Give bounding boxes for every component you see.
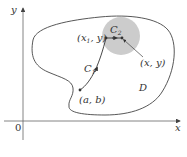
line-integral-diagram: y x 0 C2 C1 (x1, y) (x, y) (a, b) D: [0, 0, 187, 157]
a-b-label: (a, b): [79, 94, 106, 105]
point-x-y: [121, 37, 124, 40]
c1-label: C1: [84, 63, 95, 75]
c2-subscript: 2: [117, 29, 122, 36]
region-d-label: D: [138, 82, 147, 93]
c1-subscript: 1: [92, 68, 96, 75]
y-axis-label: y: [10, 4, 17, 15]
origin-label: 0: [15, 122, 21, 133]
x1-y-close: , y): [90, 32, 106, 43]
x1-y-label: (x1, y): [77, 32, 106, 44]
x-axis-label: x: [175, 122, 181, 133]
point-a-b: [79, 89, 82, 92]
x-y-label: (x, y): [140, 57, 166, 68]
x1-y-open: (x: [77, 32, 87, 43]
